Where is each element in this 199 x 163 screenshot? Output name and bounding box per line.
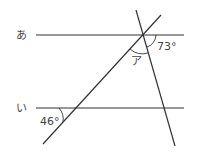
angle-46-label: 46° (40, 115, 60, 128)
angle-unknown-label: ア (131, 55, 142, 68)
line-a-label: あ (16, 29, 27, 42)
line-i-label: い (16, 102, 27, 115)
angle-arc-73 (147, 35, 156, 47)
angle-arc-a (130, 49, 148, 54)
angle-arc-46 (59, 108, 63, 122)
angle-73-label: 73° (157, 40, 177, 53)
parallel-lines-diagram: あ い 73° ア 46° (0, 0, 199, 163)
transversal-right (136, 10, 175, 146)
